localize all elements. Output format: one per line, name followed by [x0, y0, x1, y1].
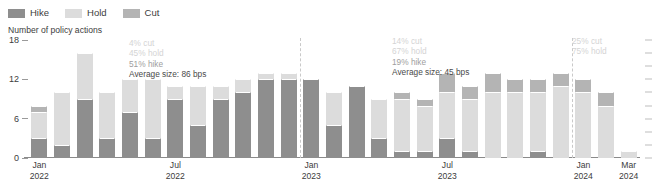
bar-segment-hike	[54, 145, 70, 158]
bar-segment-hike	[281, 79, 297, 158]
bar-segment-hike	[31, 138, 47, 158]
bar-segment-hike	[394, 151, 410, 158]
bar-segment-hold	[621, 151, 637, 158]
bar-segment-hold	[553, 86, 569, 158]
bar-segment-hold	[54, 92, 70, 144]
bar-jan-2023[interactable]	[303, 79, 319, 158]
y-axis-tick-mark	[22, 79, 28, 80]
bar-segment-hold	[530, 92, 546, 151]
annot-2022: 4% cut45% hold51% hikeAverage size: 86 b…	[129, 38, 206, 79]
bar-segment-hold	[326, 92, 342, 125]
annotation-line: 14% cut	[392, 36, 469, 46]
bar-segment-hold	[462, 99, 478, 151]
x-axis-label-year: 2024	[619, 171, 638, 182]
x-axis-tick-label: Jan2024	[574, 160, 593, 181]
annot-2024: 25% cut75% hold	[572, 36, 607, 57]
bar-segment-hold	[371, 99, 387, 138]
bar-segment-hike	[190, 125, 206, 158]
plot-area: 061218	[28, 40, 640, 158]
bar-segment-cut	[485, 73, 501, 93]
x-axis-label-year: 2022	[166, 171, 185, 182]
bar-segment-hold	[122, 79, 138, 112]
x-axis-tick-label: Jan2023	[302, 160, 321, 181]
right-axis-tick-mark	[645, 144, 652, 145]
bar-segment-hold	[598, 106, 614, 158]
y-axis-tick-label: 18	[5, 35, 19, 45]
annotation-line: 51% hike	[129, 59, 206, 69]
bar-segment-hold	[417, 106, 433, 152]
bar-oct-2022[interactable]	[235, 79, 251, 158]
bar-segment-hold	[235, 79, 251, 92]
bar-segment-cut	[462, 86, 478, 99]
bar-segment-hike	[326, 125, 342, 158]
annotation-line: 4% cut	[129, 38, 206, 48]
x-axis-labels: Jan2022Jul2022Jan2023Jul2023Jan2024Mar20…	[0, 160, 647, 184]
bar-segment-hold	[77, 53, 93, 99]
bar-segment-hold	[485, 92, 501, 158]
bar-sep-2023[interactable]	[485, 73, 501, 158]
bar-apr-2022[interactable]	[99, 92, 115, 158]
bar-mar-2024[interactable]	[621, 151, 637, 158]
x-axis-label-month: Jul	[438, 160, 457, 171]
bar-segment-hold	[190, 86, 206, 125]
bar-segment-hike	[530, 151, 546, 158]
bar-jun-2023[interactable]	[417, 99, 433, 158]
bar-segment-hike	[99, 138, 115, 158]
bar-feb-2024[interactable]	[598, 92, 614, 158]
bar-nov-2022[interactable]	[258, 73, 274, 158]
y-axis-tick: 6	[5, 114, 28, 124]
right-axis-tick-mark	[645, 92, 652, 93]
bar-feb-2022[interactable]	[54, 92, 70, 158]
bar-jan-2022[interactable]	[31, 106, 47, 158]
legend-item-hike[interactable]: Hike	[8, 8, 49, 18]
bar-segment-hike	[462, 151, 478, 158]
bar-mar-2023[interactable]	[349, 86, 365, 158]
bar-segment-hike	[417, 151, 433, 158]
y-axis-tick: 12	[5, 74, 28, 84]
bar-jul-2022[interactable]	[167, 86, 183, 158]
bar-segment-cut	[530, 79, 546, 92]
bar-feb-2023[interactable]	[326, 92, 342, 158]
y-axis-tick-label: 6	[5, 114, 19, 124]
y-axis-tick-label: 12	[5, 74, 19, 84]
x-axis-label-month: Mar	[619, 160, 638, 171]
bar-segment-hike	[213, 99, 229, 158]
annotation-line: Average size: 45 bps	[392, 67, 469, 77]
bar-sep-2022[interactable]	[213, 86, 229, 158]
bar-may-2022[interactable]	[122, 79, 138, 158]
annotation-line: 45% hold	[129, 48, 206, 58]
bar-nov-2023[interactable]	[530, 79, 546, 158]
x-axis-label-year: 2022	[30, 171, 49, 182]
legend-item-cut[interactable]: Cut	[123, 8, 160, 18]
bar-segment-hold	[99, 92, 115, 138]
bar-segment-hold	[31, 112, 47, 138]
bar-aug-2022[interactable]	[190, 86, 206, 158]
y-axis-tick: 18	[5, 35, 28, 45]
x-axis-tick-label: Jul2022	[166, 160, 185, 181]
bar-jan-2024[interactable]	[575, 79, 591, 158]
bar-segment-hike	[371, 138, 387, 158]
bar-may-2023[interactable]	[394, 92, 410, 158]
x-axis-label-year: 2024	[574, 171, 593, 182]
y-axis-tick-mark	[22, 158, 28, 159]
bar-segment-hike	[167, 99, 183, 158]
bar-dec-2022[interactable]	[281, 73, 297, 158]
bar-jul-2023[interactable]	[439, 73, 455, 158]
bar-jun-2022[interactable]	[145, 79, 161, 158]
legend-item-hold[interactable]: Hold	[65, 8, 107, 18]
right-axis-tick-mark	[645, 66, 652, 67]
bar-segment-cut	[507, 79, 523, 92]
bar-segment-hold	[167, 86, 183, 99]
bar-apr-2023[interactable]	[371, 99, 387, 158]
x-axis-label-year: 2023	[438, 171, 457, 182]
bar-dec-2023[interactable]	[553, 73, 569, 158]
square-swatch-icon	[123, 9, 140, 18]
bar-segment-hold	[213, 86, 229, 99]
bar-aug-2023[interactable]	[462, 86, 478, 158]
bar-segment-hike	[258, 79, 274, 158]
bar-mar-2022[interactable]	[77, 53, 93, 158]
bar-segment-hold	[507, 92, 523, 158]
bar-segment-hike	[77, 99, 93, 158]
annotation-line: 19% hike	[392, 57, 469, 67]
bar-oct-2023[interactable]	[507, 79, 523, 158]
